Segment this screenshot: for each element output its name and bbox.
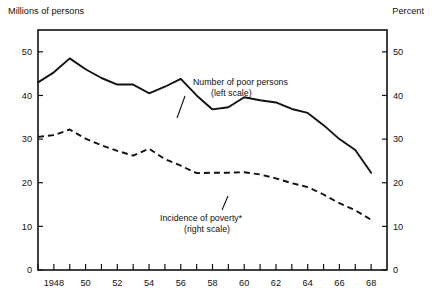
chart-canvas: Millions of persons Percent 01020304050 … [0,0,432,304]
annotation-incidence-line2: (right scale) [184,224,230,234]
right-tick-label: 20 [393,178,403,188]
right-tick-label: 30 [393,134,403,144]
annotation-poor-persons-line2: (left scale) [211,88,252,98]
x-tick-label: 60 [239,278,249,288]
right-axis-ticks: 01020304050 [382,47,403,275]
left-tick-label: 20 [22,178,32,188]
x-tick-label: 68 [366,278,376,288]
left-tick-label: 30 [22,134,32,144]
right-tick-label: 50 [393,47,403,57]
series-incidence-of-poverty [38,129,371,219]
x-tick-label: 64 [303,278,313,288]
right-tick-label: 0 [393,265,398,275]
leader-line-incidence [222,196,228,210]
x-tick-label: 52 [112,278,122,288]
x-tick-label: 56 [176,278,186,288]
x-tick-label: 58 [207,278,217,288]
x-tick-label: 66 [334,278,344,288]
x-tick-label: 1948 [44,278,64,288]
x-tick-label: 50 [80,278,90,288]
annotation-poor-persons-line1: Number of poor persons [193,77,288,87]
annotation-incidence-line1: Incidence of poverty* [160,213,243,223]
right-tick-label: 40 [393,91,403,101]
left-tick-label: 0 [27,265,32,275]
left-tick-label: 50 [22,47,32,57]
left-axis-caption: Millions of persons [8,6,84,16]
plot-frame [38,30,387,270]
left-tick-label: 10 [22,222,32,232]
poverty-chart: Millions of persons Percent 01020304050 … [0,0,432,304]
left-tick-label: 40 [22,91,32,101]
x-tick-label: 54 [144,278,154,288]
x-axis-ticks: 194850525456586062646668 [38,264,376,288]
x-tick-label: 62 [271,278,281,288]
series-number-of-poor-persons [38,58,371,172]
right-tick-label: 10 [393,222,403,232]
right-axis-caption: Percent [392,6,424,16]
leader-line-poor-persons [177,96,185,118]
